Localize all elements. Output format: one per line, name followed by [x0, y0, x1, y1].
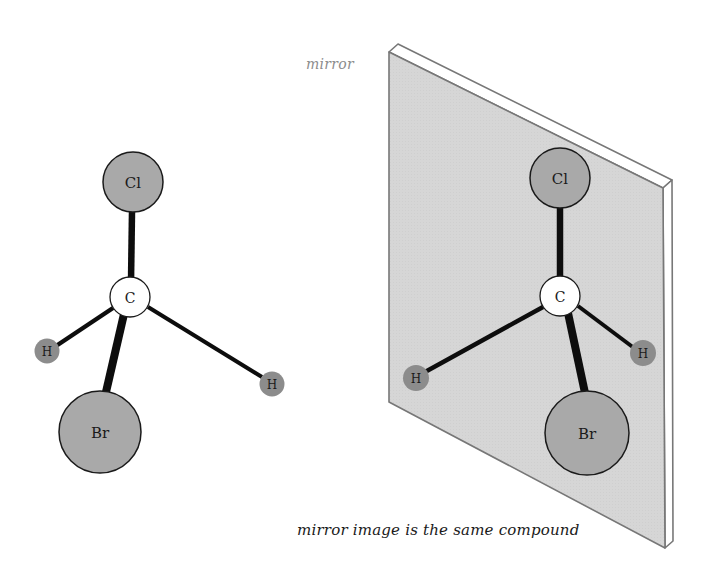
atom-cl: Cl: [103, 152, 163, 212]
atom-h-left: H: [403, 365, 429, 391]
mirror-label: mirror: [306, 56, 354, 72]
atom-c: C: [110, 277, 150, 317]
bond-c-h-right: [148, 307, 262, 377]
svg-text:Cl: Cl: [125, 174, 141, 192]
atom-h-right: H: [630, 340, 656, 366]
bond-c-h-left: [56, 308, 113, 346]
svg-text:C: C: [125, 290, 136, 306]
diagram-canvas: Cl C H H Br: [0, 0, 709, 576]
mirror-plate: [389, 44, 673, 548]
caption: mirror image is the same compound: [297, 521, 579, 539]
svg-text:H: H: [411, 372, 421, 386]
svg-text:Br: Br: [91, 424, 110, 442]
svg-text:H: H: [638, 347, 648, 361]
svg-text:H: H: [42, 345, 52, 359]
mirror-face: [389, 52, 665, 548]
svg-text:Br: Br: [578, 425, 597, 443]
svg-text:C: C: [555, 289, 566, 305]
molecule-original: Cl C H H Br: [35, 152, 285, 473]
bond-c-br: [106, 314, 124, 392]
atom-br: Br: [59, 391, 141, 473]
atom-cl: Cl: [530, 148, 590, 208]
svg-text:H: H: [267, 378, 277, 392]
atom-h-left: H: [35, 339, 60, 364]
chirality-diagram: Cl C H H Br: [0, 0, 709, 576]
atom-c: C: [540, 276, 580, 316]
svg-text:Cl: Cl: [552, 170, 568, 188]
bond-c-cl: [131, 212, 132, 282]
atom-br: Br: [545, 391, 629, 475]
atom-h-right: H: [260, 372, 285, 397]
